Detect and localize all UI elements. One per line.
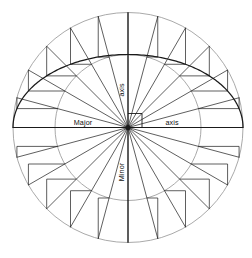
- ellipse-construction-diagram: Major axis axis Minor: [0, 0, 252, 258]
- center-point-marker: [125, 125, 130, 130]
- center-dot-icon: [125, 125, 130, 130]
- label-major-axis-left: Major: [74, 118, 93, 127]
- label-major-axis-right: axis: [165, 118, 178, 127]
- diagram-canvas: Major axis axis Minor: [0, 0, 252, 258]
- label-minor-axis-bottom: Minor: [117, 162, 126, 181]
- label-minor-axis-top: axis: [117, 83, 126, 96]
